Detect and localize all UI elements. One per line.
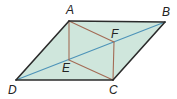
parallelogram-diagram: A B C D E F bbox=[0, 0, 177, 99]
point-label-f: F bbox=[111, 27, 119, 41]
vertex-label-a: A bbox=[65, 3, 74, 17]
point-label-e: E bbox=[62, 61, 71, 75]
vertex-label-d: D bbox=[8, 83, 17, 97]
vertex-label-b: B bbox=[162, 5, 170, 19]
edge-ab bbox=[69, 21, 165, 22]
vertex-label-c: C bbox=[109, 83, 118, 97]
